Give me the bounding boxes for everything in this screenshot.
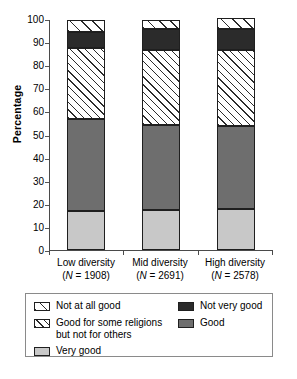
x-category-label: High diversity	[192, 257, 278, 270]
bar-high-diversity[interactable]	[217, 18, 255, 250]
segment-not-very-good[interactable]	[142, 29, 180, 50]
segment-very-good[interactable]	[217, 209, 255, 250]
dark-gray-swatch-icon	[178, 302, 194, 311]
y-tick-label: 50	[18, 131, 44, 141]
legend-item-good-for-some-religions[interactable]: Good for some religions but not for othe…	[34, 317, 174, 340]
y-tick-label: 30	[18, 177, 44, 187]
x-tick-mark	[49, 251, 50, 255]
bar-low-diversity[interactable]	[67, 20, 105, 250]
plot-area: Percentage 100 90 80 70 60 50 40 30 20 1…	[0, 0, 297, 288]
segment-good[interactable]	[67, 119, 105, 211]
x-axis-category-labels: Low diversity (N = 1908) Mid diversity (…	[49, 257, 273, 289]
light-gray-swatch-icon	[34, 347, 50, 356]
y-tick-label: 20	[18, 200, 44, 210]
segment-not-at-all-good[interactable]	[67, 20, 105, 32]
x-category-label: Mid diversity	[117, 257, 203, 270]
stacked-bar-chart: Percentage 100 90 80 70 60 50 40 30 20 1…	[0, 0, 297, 379]
y-tick-label: 90	[18, 38, 44, 48]
legend-column-left: Not at all good Good for some religions …	[34, 300, 174, 362]
x-tick-mark	[123, 251, 124, 255]
y-tick-label: 10	[18, 223, 44, 233]
y-tick-label: 0	[18, 246, 44, 256]
segment-good-for-some-religions[interactable]	[67, 48, 105, 119]
segment-good[interactable]	[217, 126, 255, 209]
dense-hatch-swatch-icon	[34, 319, 50, 328]
legend-item-not-very-good[interactable]: Not very good	[178, 300, 270, 312]
segment-very-good[interactable]	[142, 210, 180, 250]
segment-not-very-good[interactable]	[217, 29, 255, 50]
legend-label: Good	[200, 317, 224, 329]
sparse-hatch-swatch-icon	[34, 302, 50, 311]
y-tick-label: 70	[18, 84, 44, 94]
segment-good-for-some-religions[interactable]	[142, 50, 180, 125]
segment-very-good[interactable]	[67, 211, 105, 250]
segment-good-for-some-religions[interactable]	[217, 50, 255, 126]
x-category-mid-diversity: Mid diversity (N = 2691)	[117, 257, 203, 282]
x-tick-mark	[272, 251, 273, 255]
x-category-high-diversity: High diversity (N = 2578)	[192, 257, 278, 282]
bars-layer	[49, 20, 273, 250]
x-tick-mark	[198, 251, 199, 255]
legend-label: Not at all good	[56, 300, 121, 312]
medium-gray-swatch-icon	[178, 319, 194, 328]
legend-label: Very good	[56, 345, 101, 357]
chart-legend: Not at all good Good for some religions …	[25, 293, 273, 357]
x-category-n: (N = 2578)	[192, 270, 278, 283]
segment-not-very-good[interactable]	[67, 32, 105, 48]
segment-not-at-all-good[interactable]	[217, 18, 255, 29]
y-axis-tick-labels: 100 90 80 70 60 50 40 30 20 10 0	[18, 0, 44, 230]
bar-mid-diversity[interactable]	[142, 20, 180, 250]
x-category-n: (N = 2691)	[117, 270, 203, 283]
legend-item-good[interactable]: Good	[178, 317, 270, 329]
segment-not-at-all-good[interactable]	[142, 20, 180, 29]
y-tick-label: 60	[18, 107, 44, 117]
y-tick-label: 100	[18, 15, 44, 25]
legend-item-not-at-all-good[interactable]: Not at all good	[34, 300, 174, 312]
legend-column-right: Not very good Good	[178, 300, 270, 334]
legend-item-very-good[interactable]: Very good	[34, 345, 174, 357]
segment-good[interactable]	[142, 125, 180, 210]
y-tick-label: 80	[18, 61, 44, 71]
x-axis-line	[49, 250, 273, 251]
y-tick-label: 40	[18, 154, 44, 164]
legend-label: Good for some religions but not for othe…	[56, 317, 162, 340]
legend-label: Not very good	[200, 300, 262, 312]
